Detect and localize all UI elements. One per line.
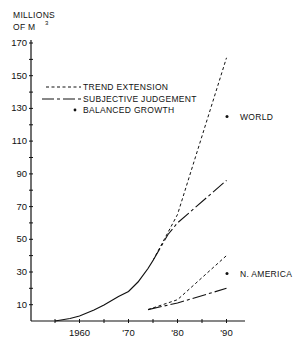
legend: TREND EXTENSION SUBJECTIVE JUDGEMENT BAL… [42,82,197,115]
legend-dot-swatch [74,109,77,112]
legend-label-subjective: SUBJECTIVE JUDGEMENT [83,94,197,104]
svg-text:'80: '80 [171,327,183,338]
svg-text:150: 150 [11,70,27,81]
chart: MILLIONS OF M 3 10 30 50 70 90 110 130 1… [0,0,295,342]
y-axis-label-superscript: 3 [45,20,49,26]
legend-label-trend: TREND EXTENSION [83,82,168,92]
world-balanced-dot [226,115,229,118]
y-axis-label-line2: OF M [13,22,35,32]
svg-text:130: 130 [11,102,27,113]
legend-label-balanced: BALANCED GROWTH [83,105,174,115]
svg-text:70: 70 [16,201,27,212]
annotation-namerica: N. AMERICA [240,269,292,279]
namerica-subjective-line [148,288,227,309]
svg-text:'70: '70 [122,327,134,338]
svg-text:1960: 1960 [69,327,90,338]
svg-text:30: 30 [16,266,27,277]
world-historical-line [55,261,153,322]
svg-text:90: 90 [16,168,27,179]
world-subjective-line [153,180,227,260]
annotation-world: WORLD [240,112,273,122]
x-tick-labels: 1960 '70 '80 '90 [69,327,233,338]
svg-text:50: 50 [16,233,27,244]
namerica-balanced-dot [226,272,229,275]
y-axis-label-line1: MILLIONS [13,10,55,20]
svg-text:110: 110 [12,135,27,146]
svg-text:10: 10 [16,299,27,310]
svg-text:170: 170 [11,37,27,48]
namerica-trend-line [148,256,227,310]
y-tick-labels: 10 30 50 70 90 110 130 150 170 [11,37,27,310]
svg-text:'90: '90 [220,327,232,338]
